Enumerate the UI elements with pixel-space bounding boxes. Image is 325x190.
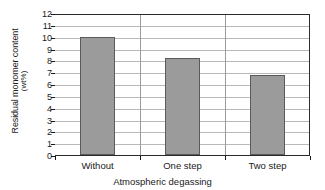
bar-one-step (165, 58, 201, 155)
y-axis-unit-text: (wt%) (21, 28, 29, 133)
x-axis-tick-mark (55, 156, 56, 160)
gridline (55, 26, 309, 27)
bar-chart-figure: Residual monomer content (wt%) 012345678… (0, 0, 325, 190)
category-divider (140, 15, 141, 155)
y-axis-title: Residual monomer content (wt%) (0, 0, 40, 162)
x-axis-tick-mark (310, 156, 311, 160)
x-axis-tick-label: Two step (248, 160, 286, 171)
x-axis-tick-mark (140, 156, 141, 160)
x-axis-tick-label: One step (163, 160, 202, 171)
plot-area (55, 14, 310, 156)
bar-without (80, 37, 116, 155)
y-axis-tick-labels: 0123456789101112 (36, 8, 52, 156)
x-axis-title: Atmospheric degassing (0, 176, 325, 187)
bar-two-step (250, 75, 286, 155)
x-axis-tick-mark (225, 156, 226, 160)
x-axis-tick-label: Without (81, 160, 113, 171)
category-divider (225, 15, 226, 155)
